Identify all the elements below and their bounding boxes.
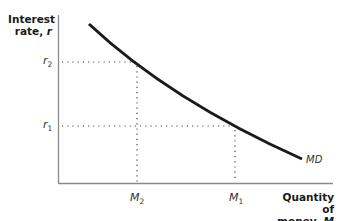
y-tick-r1-sub: 1 xyxy=(48,124,53,133)
x-axis-variable: M xyxy=(324,215,334,221)
y-axis-title: Interest rate, r xyxy=(8,13,52,37)
y-axis-title-line1: Interest xyxy=(8,13,52,25)
money-demand-diagram xyxy=(0,0,351,221)
x-axis-title-text: money, xyxy=(277,215,323,221)
md-curve xyxy=(89,24,302,159)
x-tick-m2-sub: 2 xyxy=(140,197,145,206)
y-tick-r2-sub: 2 xyxy=(48,60,53,69)
y-axis-title-text: rate, xyxy=(15,25,47,37)
md-curve-label: MD xyxy=(306,154,322,166)
y-axis-variable: r xyxy=(47,25,52,37)
x-axis-title-line1: Quantity of xyxy=(272,191,334,215)
x-tick-m2: M2 xyxy=(130,191,144,206)
x-axis-title: Quantity of money, M xyxy=(272,191,334,221)
y-tick-r2: r2 xyxy=(43,54,52,69)
y-tick-r1: r1 xyxy=(43,118,52,133)
x-tick-m2-base: M xyxy=(130,191,140,204)
x-tick-m1: M1 xyxy=(229,191,243,206)
y-axis-title-line2: rate, r xyxy=(8,25,52,37)
x-axis-title-line2: money, M xyxy=(272,215,334,221)
x-tick-m1-sub: 1 xyxy=(239,197,244,206)
x-tick-m1-base: M xyxy=(229,191,239,204)
